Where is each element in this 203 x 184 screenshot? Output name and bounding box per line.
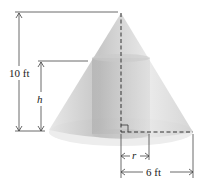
cone-cylinder-diagram: 10 ft h r 6 ft (0, 0, 203, 184)
cone-radius-label: 6 ft (146, 166, 161, 178)
cylinder-height-label: h (37, 93, 43, 105)
cone-height-label: 10 ft (9, 67, 29, 79)
cylinder-radius-label: r (132, 149, 137, 161)
